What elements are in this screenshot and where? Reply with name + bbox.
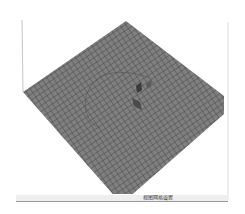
axis-line <box>22 20 23 92</box>
grid-plane-canvas <box>0 0 245 214</box>
status-units: mm <box>163 194 171 201</box>
status-bar: 视图网格设置 mm <box>16 195 228 202</box>
grid-plane <box>23 21 224 200</box>
3d-viewport[interactable]: 视图网格设置 mm <box>0 0 245 214</box>
